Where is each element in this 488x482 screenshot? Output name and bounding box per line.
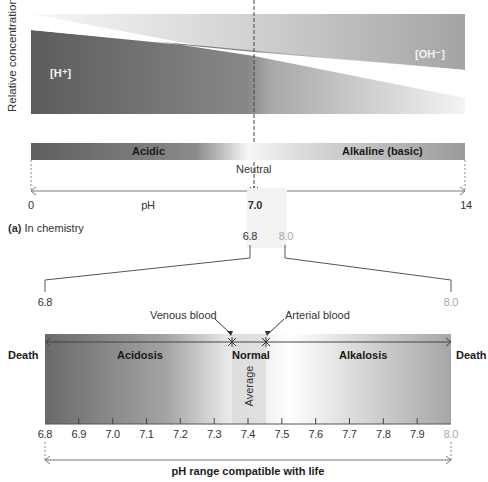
tick-label: 7.4	[241, 428, 255, 440]
tick-label: 7.5	[275, 428, 289, 440]
tick-label: 8.0	[444, 428, 458, 440]
zoom-large-right-label: 8.0	[444, 296, 458, 308]
tick-label: 7.0	[105, 428, 119, 440]
y-axis-label: Relative concentration	[6, 12, 18, 112]
alkaline-label: Alkaline (basic)	[342, 145, 423, 157]
expansion-line-right	[285, 258, 451, 292]
venous-blood-label: Venous blood	[150, 309, 217, 321]
tick-label: 7.3	[207, 428, 221, 440]
tick-label: 7.6	[308, 428, 322, 440]
ph-min-label: 0	[28, 199, 34, 211]
oh-ion-label: [OH⁻]	[415, 48, 445, 61]
tick-label: 7.7	[342, 428, 356, 440]
ph-max-label: 14	[460, 199, 472, 211]
tick-label: 6.8	[38, 428, 52, 440]
acidosis-label: Acidosis	[117, 349, 163, 361]
caption-a: (a) In chemistry	[8, 222, 84, 234]
ph-axis-label: pH	[141, 199, 154, 211]
alkalosis-label: Alkalosis	[339, 349, 387, 361]
expansion-line-left	[45, 258, 250, 292]
ph-neutral-value: 7.0	[248, 199, 262, 211]
arterial-blood-label: Arterial blood	[285, 309, 350, 321]
zoom-large-left-label: 6.8	[38, 296, 52, 308]
caption-a-letter: (a)	[8, 222, 21, 234]
tick-label: 7.1	[139, 428, 153, 440]
zoom-small-right-label: 8.0	[279, 230, 293, 242]
average-label: Average	[243, 362, 255, 410]
death-right-label: Death	[456, 349, 487, 361]
neutral-label: Neutral	[236, 163, 271, 175]
h-ion-label: [H⁺]	[50, 67, 71, 80]
life-range-label: pH range compatible with life	[172, 465, 325, 477]
tick-label: 7.8	[376, 428, 390, 440]
caption-a-text: In chemistry	[25, 222, 84, 234]
death-left-label: Death	[8, 349, 39, 361]
tick-label: 7.2	[173, 428, 187, 440]
normal-label: Normal	[232, 349, 270, 361]
acidic-label: Acidic	[132, 145, 165, 157]
tick-label: 7.9	[410, 428, 424, 440]
tick-label: 6.9	[72, 428, 86, 440]
zoom-small-left-label: 6.8	[243, 230, 257, 242]
